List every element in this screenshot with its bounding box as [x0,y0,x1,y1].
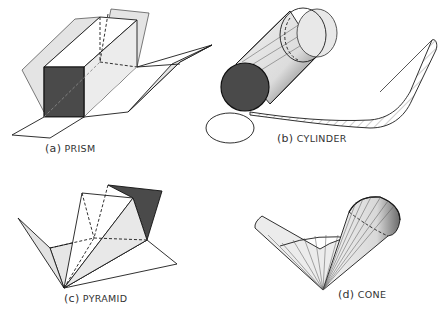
cone-diagram [255,197,400,290]
prism-front-face [44,67,84,117]
pyramid-diagram [18,185,177,288]
label-cone: (d) CONE [338,288,386,301]
label-cone-letter: (d) [338,288,354,301]
label-pyramid-name: PYRAMID [83,293,127,304]
cylinder-front-face [221,63,269,111]
cylinder-back-ellipse [297,9,337,57]
label-cylinder: (b) CYLINDER [277,132,347,145]
label-prism-letter: (a) [45,142,61,155]
prism-diagram [12,9,212,138]
label-cylinder-name: CYLINDER [297,133,347,144]
label-cone-name: CONE [358,289,386,300]
prism-bottom-flap [12,117,84,138]
label-cylinder-letter: (b) [277,132,293,145]
label-pyramid-letter: (c) [64,292,80,305]
label-pyramid: (c) PYRAMID [64,292,127,305]
cylinder-diagram [206,8,437,143]
label-prism: (a) PRISM [45,142,95,155]
cylinder-base-ellipse [206,113,254,143]
label-prism-name: PRISM [65,143,96,154]
